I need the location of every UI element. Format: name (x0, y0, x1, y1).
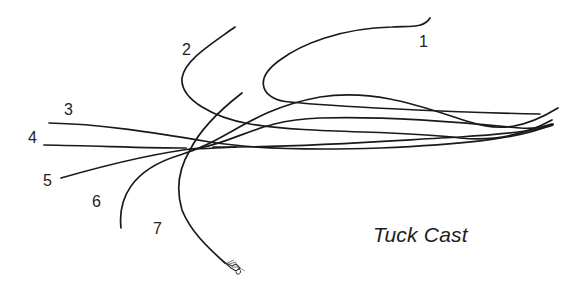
tuck-cast-diagram: 1 2 3 4 5 6 7 Tuck Cast (0, 0, 586, 292)
stage-label-4: 4 (28, 130, 37, 146)
fly-icon (222, 258, 248, 278)
stage-label-6: 6 (92, 194, 101, 210)
diagram-caption: Tuck Cast (373, 224, 468, 245)
stage-label-3: 3 (64, 102, 73, 118)
line-stage-2 (182, 27, 552, 139)
line-stage-7 (179, 93, 242, 263)
line-stage-6 (121, 95, 558, 228)
line-stages-svg (0, 0, 586, 292)
stage-label-5: 5 (43, 173, 52, 189)
stage-label-2: 2 (182, 42, 191, 58)
line-stage-4-extension (213, 125, 553, 147)
stage-label-7: 7 (153, 221, 162, 237)
stage-label-1: 1 (419, 34, 428, 50)
